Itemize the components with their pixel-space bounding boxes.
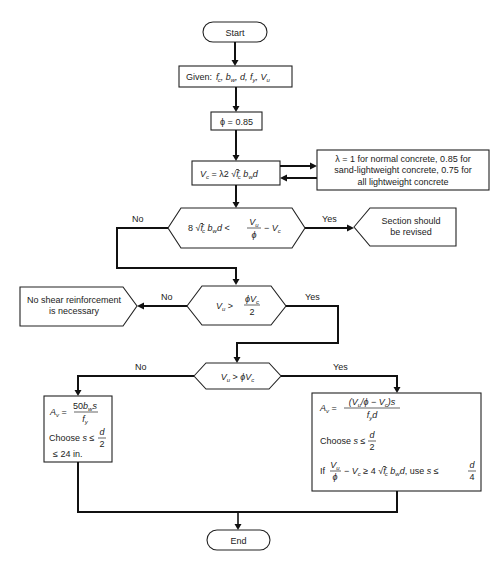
svg-text:ϕ: ϕ — [332, 472, 337, 482]
start-label: Start — [225, 28, 245, 38]
revise-line-1: Section should — [381, 216, 440, 226]
decision-3-condition: Vu > ϕVc — [221, 372, 255, 383]
svg-text:2: 2 — [99, 439, 104, 449]
section-revise-box: Section should be revised — [354, 208, 456, 246]
decision-1-condition: 8 √f′c bwd < — [188, 223, 230, 234]
svg-text:4: 4 — [469, 472, 474, 482]
connector-vc-lambda — [280, 163, 317, 182]
no-shear-reinforcement-box: No shear reinforcement is necessary — [20, 287, 137, 326]
decision-1-no-label: No — [132, 214, 144, 224]
end-terminal: End — [207, 530, 270, 550]
connector-phi-vc — [233, 130, 240, 161]
svg-text:(Vu/ϕ − Vc)s: (Vu/ϕ − Vc)s — [349, 397, 396, 408]
connector-decision3-no: No — [75, 362, 195, 396]
svg-text:2: 2 — [249, 307, 254, 317]
given-prefix: Given: — [186, 72, 212, 82]
lambda-line-3: all lightweight concrete — [357, 177, 448, 187]
connector-decision2-no: No — [137, 292, 187, 310]
decision-2-condition: Vu > — [216, 301, 233, 312]
svg-text:If: If — [320, 466, 326, 476]
decision-3-yes-label: Yes — [333, 362, 348, 372]
decision-3-capacity-check: Vu > ϕVc — [194, 363, 281, 389]
connector-vc-decision1 — [233, 185, 240, 208]
revise-line-2: be revised — [390, 227, 432, 237]
min-spacing-limit: ≤ 24 in. — [53, 449, 82, 459]
min-choose-spacing: Choose s ≤ — [49, 433, 95, 443]
svg-text:50bws: 50bws — [73, 401, 97, 412]
decision-1-section-check: 8 √f′c bwd < Vu ϕ − Vc — [168, 208, 305, 248]
shear-design-flowchart: Start Given: f′c, bw, d, fy, Vu ϕ = 0.85… — [0, 0, 496, 562]
given-variables: f′c, bw, d, fy, Vu — [216, 72, 271, 83]
vc-formula-box: Vc = λ2 √f′c bwd — [192, 161, 280, 185]
connector-decision3-yes: Yes — [281, 362, 401, 393]
phi-value: ϕ = 0.85 — [220, 117, 253, 127]
connector-decision1-yes: Yes — [305, 214, 354, 232]
connector-start-given — [232, 42, 239, 66]
no-shear-line-2: is necessary — [49, 306, 100, 316]
lambda-line-1: λ = 1 for normal concrete, 0.85 for — [335, 154, 470, 164]
decision-2-half-capacity-check: Vu > ϕVc 2 — [187, 286, 286, 325]
svg-text:ϕ: ϕ — [251, 230, 256, 240]
svg-text:2: 2 — [369, 442, 374, 452]
lambda-note-box: λ = 1 for normal concrete, 0.85 for sand… — [317, 150, 489, 190]
shear-choose-spacing: Choose s ≤ — [320, 436, 366, 446]
shear-reinforcement-box: Av = (Vu/ϕ − Vc)s fyd Choose s ≤ d 2 If … — [312, 393, 481, 491]
start-terminal: Start — [203, 22, 267, 42]
no-shear-line-1: No shear reinforcement — [27, 295, 122, 305]
minimum-reinforcement-box: Av = 50bws fy Choose s ≤ d 2 ≤ 24 in. — [44, 396, 112, 462]
given-box: Given: f′c, bw, d, fy, Vu — [179, 66, 292, 87]
connector-given-phi — [233, 87, 240, 112]
decision-2-yes-label: Yes — [305, 292, 320, 302]
decision-1-yes-label: Yes — [322, 214, 337, 224]
phi-box: ϕ = 0.85 — [211, 112, 262, 130]
end-label: End — [230, 536, 246, 546]
svg-text:fyd: fyd — [367, 410, 379, 421]
lambda-line-2: sand-lightweight concrete, 0.75 for — [334, 165, 472, 175]
decision-3-no-label: No — [135, 362, 147, 372]
decision-2-no-label: No — [161, 292, 173, 302]
